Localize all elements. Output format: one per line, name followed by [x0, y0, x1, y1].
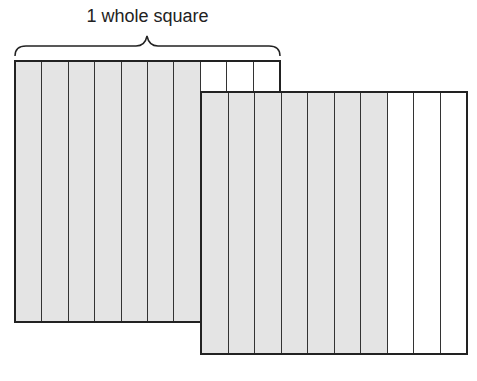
unshaded-column	[388, 93, 415, 353]
shaded-column	[202, 93, 229, 353]
shaded-column	[122, 62, 148, 321]
unshaded-column	[414, 93, 441, 353]
shaded-column	[16, 62, 42, 321]
shaded-column	[308, 93, 335, 353]
brace-icon	[14, 30, 281, 58]
shaded-column	[282, 93, 309, 353]
unshaded-column	[441, 93, 467, 353]
shaded-column	[148, 62, 174, 321]
shaded-column	[335, 93, 362, 353]
shaded-column	[42, 62, 68, 321]
shaded-column	[229, 93, 256, 353]
whole-square-label: 1 whole square	[14, 6, 281, 27]
shaded-column	[255, 93, 282, 353]
shaded-column	[174, 62, 200, 321]
shaded-column	[69, 62, 95, 321]
shaded-column	[361, 93, 388, 353]
square-2	[200, 91, 468, 355]
shaded-column	[95, 62, 121, 321]
